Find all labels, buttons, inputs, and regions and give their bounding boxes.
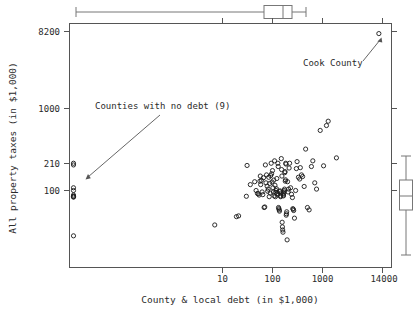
y-tick-label-1000: 1000: [38, 104, 60, 114]
y-axis-title: All property taxes (in $1,000): [7, 62, 18, 234]
data-point: [302, 184, 306, 188]
data-point: [285, 238, 289, 242]
data-point: [253, 180, 257, 184]
data-point: [287, 166, 291, 170]
data-point: [295, 160, 299, 164]
data-point: [213, 223, 217, 227]
y-tick-label-210: 210: [44, 159, 60, 169]
data-point: [244, 194, 248, 198]
data-point: [279, 156, 283, 160]
data-point: [326, 119, 330, 123]
annotation-cook-county-label: Cook County: [303, 58, 363, 68]
y-tick-label-100: 100: [44, 186, 60, 196]
data-point: [377, 31, 381, 35]
top-marginal-boxplot: [76, 6, 306, 19]
x-tick-label-100: 100: [264, 274, 280, 284]
data-point: [321, 164, 325, 168]
annotation-cook-county: Cook County: [303, 38, 382, 69]
annotation-no-debt: Counties with no debt (9): [86, 101, 231, 180]
data-point: [294, 188, 298, 192]
data-point: [245, 163, 249, 167]
x-axis-ticks: 10 100 1000 14000: [217, 268, 397, 285]
data-point: [311, 159, 315, 163]
data-point: [280, 220, 284, 224]
annotation-no-debt-label: Counties with no debt (9): [95, 101, 230, 111]
x-axis-title: County & local debt (in $1,000): [141, 294, 318, 305]
chart-container: 8200 1000 210 100 10 100 1000 14000: [0, 0, 419, 322]
data-point: [314, 187, 318, 191]
data-point: [318, 128, 322, 132]
x-tick-label-10: 10: [217, 274, 228, 284]
y-tick-label-8200: 8200: [38, 27, 60, 37]
data-point: [324, 123, 328, 127]
y-axis-ticks: 8200 1000 210 100: [38, 27, 69, 196]
zero-debt-data-point: [71, 234, 75, 238]
data-point: [263, 163, 267, 167]
zero-debt-data-point: [71, 188, 75, 192]
x-tick-label-1000: 1000: [312, 274, 334, 284]
data-point: [298, 166, 302, 170]
data-point: [309, 164, 313, 168]
data-point: [248, 183, 252, 187]
data-point: [292, 216, 296, 220]
scatter-plot-figure: 8200 1000 210 100 10 100 1000 14000: [0, 0, 419, 322]
data-point: [313, 181, 317, 185]
x-axis-ticks-top: [223, 18, 383, 24]
y-axis-ticks-right: [392, 32, 398, 191]
x-tick-label-14000: 14000: [370, 274, 397, 284]
data-point: [334, 156, 338, 160]
data-point: [304, 147, 308, 151]
right-marginal-boxplot: [400, 156, 413, 255]
zero-debt-point-group: [71, 161, 75, 238]
